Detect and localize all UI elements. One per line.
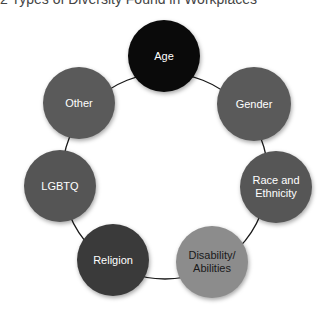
node-disability-abilities: Disability/ Abilities: [176, 226, 248, 298]
node-religion: Religion: [77, 224, 149, 296]
node-gender-label: Gender: [236, 98, 273, 111]
node-lgbtq: LGBTQ: [24, 150, 96, 222]
diversity-cycle-diagram: Age Gender Race and Ethnicity Disability…: [0, 0, 328, 310]
node-race-ethnicity: Race and Ethnicity: [240, 151, 312, 223]
node-religion-label: Religion: [93, 254, 133, 267]
node-gender: Gender: [217, 67, 291, 141]
node-other-label: Other: [65, 97, 93, 110]
node-race-ethnicity-label: Race and Ethnicity: [246, 174, 306, 200]
node-disability-abilities-label: Disability/ Abilities: [182, 249, 242, 275]
node-age: Age: [128, 20, 200, 92]
node-age-label: Age: [154, 50, 174, 63]
node-other: Other: [43, 67, 115, 139]
node-lgbtq-label: LGBTQ: [41, 180, 78, 193]
